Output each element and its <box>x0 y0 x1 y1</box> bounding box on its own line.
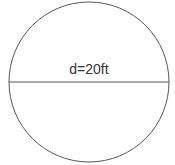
diameter-label: d=20ft <box>69 61 108 77</box>
circle-diagram: d=20ft <box>0 0 175 165</box>
